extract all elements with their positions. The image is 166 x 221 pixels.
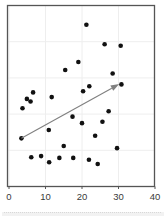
data-point [110, 71, 115, 76]
data-point [31, 90, 36, 95]
data-point [102, 42, 107, 47]
data-point [115, 146, 120, 151]
data-point [61, 144, 66, 149]
data-point [70, 114, 75, 119]
x-axis-tick-label: 30 [113, 191, 124, 202]
x-axis-tick-label: 10 [40, 191, 51, 202]
data-point [84, 22, 89, 27]
data-point [29, 155, 34, 160]
data-point [76, 60, 81, 65]
data-point [106, 109, 111, 114]
data-point [87, 84, 92, 89]
data-point [71, 156, 76, 161]
data-point [47, 160, 52, 165]
x-axis-tick-label: 20 [77, 191, 88, 202]
data-point [95, 162, 100, 167]
data-point [81, 89, 86, 94]
plot-canvas: 010203040 [0, 0, 166, 221]
data-point [20, 106, 25, 111]
scatter-plot-figure: 010203040 [0, 0, 166, 221]
data-point [49, 95, 54, 100]
x-axis-tick-label: 40 [150, 191, 161, 202]
data-point [63, 68, 68, 73]
data-point [28, 99, 33, 104]
data-point [100, 119, 105, 124]
data-point [46, 128, 51, 133]
data-point [93, 134, 98, 139]
figure-background [0, 0, 166, 221]
data-point [119, 82, 124, 87]
data-point [80, 121, 85, 126]
x-axis-tick-label: 0 [6, 191, 11, 202]
data-point [39, 154, 44, 159]
data-point [118, 43, 123, 48]
data-point [57, 156, 62, 161]
data-point [87, 157, 92, 162]
